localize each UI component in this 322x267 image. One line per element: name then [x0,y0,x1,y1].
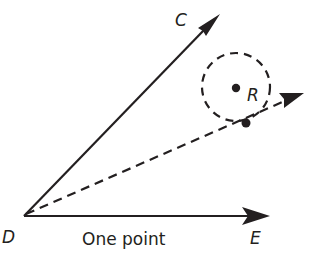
arrowhead-dashed-icon [279,93,304,108]
label-r: R [247,85,259,105]
diagram-canvas: C R D E One point [0,0,322,267]
label-d: D [2,227,15,247]
geometry-figure: C R D E One point [0,0,322,267]
label-c: C [175,10,187,30]
point-on-circle [242,119,251,128]
label-e: E [250,228,261,248]
point-r [232,84,240,92]
caption: One point [82,229,166,249]
ray-dc [24,30,204,216]
dashed-ray [26,100,287,214]
